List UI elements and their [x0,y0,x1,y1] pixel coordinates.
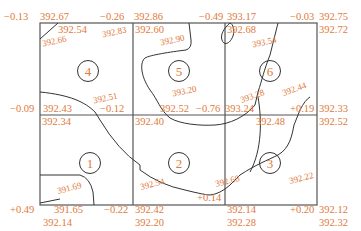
cell-2-marker: 2 [168,152,190,174]
corner-cutfill: −0.09 [10,104,34,115]
corner-ground: 392.52 [319,117,348,128]
corner-cutfill: +0.20 [290,205,314,216]
corner-design: 393.17 [227,12,256,23]
corner-ground: 392.48 [256,117,285,128]
corner-design: 392.67 [40,12,69,23]
corner-ground: 392.34 [42,117,71,128]
corner-design: 392.43 [43,104,72,115]
cell-1-marker: 1 [79,152,101,174]
cell-5-marker: 5 [168,60,190,82]
cell-3-marker: 3 [259,152,281,174]
corner-design: 392.52 [160,104,189,115]
corner-ground: 392.60 [135,25,164,36]
corner-ground: 392.68 [227,25,256,36]
corner-design: 393.24 [225,104,254,115]
corner-cutfill: −0.49 [199,12,223,23]
corner-cutfill: −0.03 [290,12,314,23]
corner-cutfill: −0.76 [196,104,220,115]
corner-ground: 392.32 [319,218,348,229]
corner-cutfill: +0.14 [197,193,221,204]
cell-4-marker: 4 [77,60,99,82]
corner-cutfill: −0.26 [100,12,124,23]
corner-cutfill: +0.49 [10,205,34,216]
corner-cutfill: −0.13 [4,12,28,23]
corner-design: 392.33 [319,104,348,115]
corner-cutfill: +0.19 [290,104,314,115]
corner-design: 392.12 [319,205,348,216]
corner-design: 392.75 [319,12,348,23]
corner-cutfill: −0.22 [104,205,128,216]
corner-ground: 392.28 [227,218,256,229]
corner-cutfill: −0.12 [100,104,124,115]
corner-design: 392.42 [135,205,164,216]
corner-ground: 392.20 [135,218,164,229]
corner-design: 392.86 [134,12,163,23]
corner-ground: 392.72 [319,25,348,36]
corner-ground: 392.14 [43,218,72,229]
corner-ground: 392.40 [135,117,164,128]
cell-6-marker: 6 [259,60,281,82]
corner-design: 392.14 [227,205,256,216]
corner-design: 391.65 [54,205,83,216]
